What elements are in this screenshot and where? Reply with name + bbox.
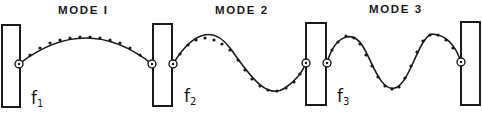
frequency-3-label: f3 (337, 86, 349, 107)
frequency-subscript: 2 (190, 96, 196, 107)
modes-diagram (0, 0, 482, 118)
frequency-subscript: 1 (37, 98, 43, 109)
string-mode-2 (173, 35, 306, 92)
frequency-subscript: 3 (343, 96, 349, 107)
frequency-2-label: f2 (184, 86, 196, 107)
string-mode-3 (327, 34, 461, 88)
mode-2-label: MODE 2 (215, 4, 269, 16)
mode-3-label: MODE 3 (369, 3, 423, 15)
mode-1-label: MODE I (58, 4, 109, 16)
frequency-1-label: f1 (31, 88, 43, 109)
string-mode-1 (19, 38, 152, 64)
